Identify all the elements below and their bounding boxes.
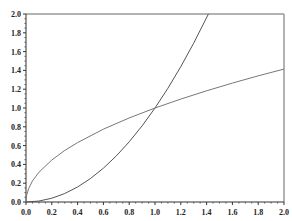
x-tick-label: 1.0 <box>150 208 160 217</box>
y-tick-label: 1.8 <box>11 29 21 38</box>
x-axis: 0.00.20.40.60.81.01.21.41.61.82.0 <box>21 202 289 217</box>
y-tick-label: 0.6 <box>11 142 21 151</box>
x-tick-label: 2.0 <box>279 208 289 217</box>
x-tick-label: 1.6 <box>227 208 237 217</box>
series-line-1 <box>26 69 284 202</box>
x-tick-label: 0.4 <box>73 208 83 217</box>
y-tick-label: 1.6 <box>11 48 21 57</box>
x-tick-label: 1.2 <box>176 208 186 217</box>
x-tick-label: 1.4 <box>202 208 212 217</box>
y-tick-label: 1.4 <box>11 66 21 75</box>
y-tick-label: 2.0 <box>11 10 21 19</box>
y-axis: 0.00.20.40.60.81.01.21.41.61.82.0 <box>11 10 26 207</box>
y-tick-label: 1.0 <box>11 104 21 113</box>
x-tick-label: 0.2 <box>47 208 57 217</box>
y-tick-label: 1.2 <box>11 85 21 94</box>
x-tick-label: 1.8 <box>253 208 263 217</box>
y-tick-label: 0.8 <box>11 123 21 132</box>
chart: 0.00.20.40.60.81.01.21.41.61.82.0 0.00.2… <box>0 0 292 221</box>
y-tick-label: 0.0 <box>11 198 21 207</box>
x-tick-label: 0.8 <box>124 208 134 217</box>
x-tick-label: 0.0 <box>21 208 31 217</box>
y-tick-label: 0.4 <box>11 160 21 169</box>
y-tick-label: 0.2 <box>11 179 21 188</box>
series-line-0 <box>26 14 208 202</box>
x-tick-label: 0.6 <box>98 208 108 217</box>
series-group <box>26 14 284 202</box>
